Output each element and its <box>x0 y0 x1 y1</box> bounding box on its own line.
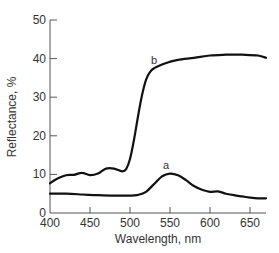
curve-labels: ab <box>151 54 170 170</box>
data-series <box>50 55 266 199</box>
reflectance-chart: 40045050055060065001020304050 ab Wavelen… <box>0 0 279 253</box>
axis-ticks: 40045050055060065001020304050 <box>33 13 261 230</box>
curve-label-a: a <box>163 159 170 171</box>
x-axis-label: Wavelength, nm <box>115 232 201 246</box>
y-tick-label: 20 <box>33 129 47 143</box>
x-tick-label: 650 <box>240 216 260 230</box>
y-axis-label: Reflectance, % <box>5 76 19 157</box>
x-tick-label: 500 <box>120 216 140 230</box>
y-tick-label: 10 <box>33 167 47 181</box>
y-tick-label: 30 <box>33 90 47 104</box>
y-tick-label: 50 <box>33 13 47 27</box>
x-tick-label: 600 <box>200 216 220 230</box>
series-line-a <box>50 174 266 199</box>
x-tick-label: 450 <box>80 216 100 230</box>
y-tick-label: 40 <box>33 52 47 66</box>
axes <box>50 20 266 213</box>
curve-label-b: b <box>151 54 157 66</box>
y-tick-label: 0 <box>39 206 46 220</box>
x-tick-label: 550 <box>160 216 180 230</box>
series-line-b <box>50 55 266 184</box>
